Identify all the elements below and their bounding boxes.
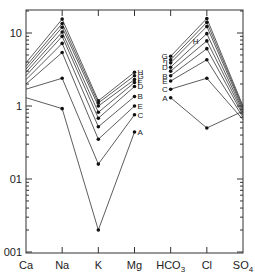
- x-tick-label: HCO3: [156, 259, 185, 274]
- data-point: [60, 107, 64, 111]
- data-point: [169, 65, 173, 69]
- data-point: [205, 126, 209, 130]
- y-tick-label: 10: [10, 27, 22, 39]
- y-tick-label: 01: [10, 173, 22, 185]
- data-point: [97, 125, 101, 129]
- data-point: [97, 110, 101, 114]
- data-point: [169, 69, 173, 73]
- data-point: [133, 85, 137, 89]
- data-point: [169, 96, 173, 100]
- y-tick-label: 001: [4, 246, 22, 258]
- x-tick-label: SO4: [233, 259, 254, 274]
- series-label-hco3: A: [162, 94, 168, 103]
- series-label-mg: A: [138, 128, 144, 137]
- series-label-mg: B: [138, 92, 143, 101]
- data-point: [133, 74, 137, 78]
- data-point: [205, 32, 209, 36]
- data-point: [169, 54, 173, 58]
- data-point: [133, 81, 137, 85]
- series-label-mg: E: [138, 102, 143, 111]
- x-tick-label: K: [95, 259, 103, 271]
- data-point: [169, 61, 173, 65]
- data-point: [60, 22, 64, 26]
- data-point: [133, 113, 137, 117]
- cation-series-line: [26, 36, 135, 118]
- data-point: [133, 95, 137, 99]
- data-point: [97, 137, 101, 141]
- cation-series-line: [26, 27, 135, 106]
- anion-series-line: [171, 98, 243, 128]
- x-tick-label: Na: [55, 259, 70, 271]
- series-label-mg: C: [138, 111, 144, 120]
- data-point: [60, 51, 64, 55]
- data-point: [60, 35, 64, 39]
- cation-series-line: [26, 98, 135, 230]
- data-point: [97, 228, 101, 232]
- data-point: [205, 17, 209, 21]
- data-point: [97, 104, 101, 108]
- x-tick-label: Ca: [19, 259, 34, 271]
- data-point: [60, 25, 64, 29]
- cation-series-line: [26, 19, 135, 101]
- data-point: [205, 21, 209, 25]
- data-point: [60, 76, 64, 80]
- x-tick-label: Cl: [202, 259, 212, 271]
- data-point: [133, 70, 137, 74]
- data-point: [205, 58, 209, 62]
- y-tick-label: 1: [16, 100, 22, 112]
- ion-concentration-chart: 10101001CaNaKMgHCO3ClSO4HGIFDBECAGFIDBEC…: [0, 0, 255, 279]
- data-point: [60, 17, 64, 21]
- x-tick-label: Mg: [127, 259, 142, 271]
- data-point: [169, 87, 173, 91]
- series-label-hco3-h: H: [193, 37, 199, 46]
- data-point: [169, 79, 173, 83]
- data-series: [26, 17, 243, 232]
- data-point: [60, 42, 64, 46]
- data-point: [60, 30, 64, 34]
- data-point: [133, 104, 137, 108]
- data-point: [169, 74, 173, 78]
- data-point: [205, 76, 209, 80]
- data-point: [205, 25, 209, 29]
- data-point: [133, 130, 137, 134]
- series-label-mg: D: [138, 82, 144, 91]
- data-point: [205, 47, 209, 51]
- data-point: [97, 116, 101, 120]
- data-point: [97, 162, 101, 166]
- data-point: [205, 39, 209, 43]
